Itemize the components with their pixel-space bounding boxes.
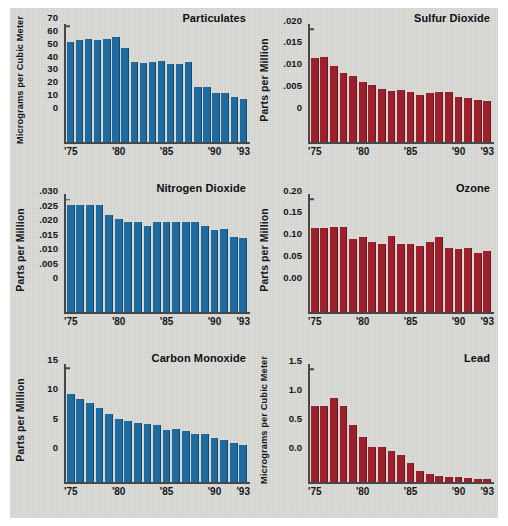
bar [388, 236, 396, 312]
chart-title: Nitrogen Dioxide [156, 182, 246, 194]
bar [320, 228, 328, 312]
bar [131, 62, 138, 142]
x-tick-label: '75 [308, 316, 322, 327]
bar [124, 222, 132, 312]
bar [182, 431, 190, 482]
bar [311, 228, 319, 312]
bar [94, 40, 101, 142]
x-tick-label: '85 [160, 316, 174, 327]
bar [134, 222, 142, 312]
bar [435, 237, 443, 312]
bar [134, 423, 142, 482]
plot-area: 0.000.050.100.150.20'75'80'85'90'93 [272, 194, 494, 340]
bar [368, 85, 376, 143]
x-tick-label: '85 [404, 316, 418, 327]
chart-panel-particulates: Micrograms per Cubic MeterParticulates01… [10, 8, 254, 178]
x-tick-label: '93 [236, 316, 250, 327]
y-tick-label: .025 [39, 199, 58, 210]
x-tick-label: '80 [356, 316, 370, 327]
bar [416, 95, 424, 143]
y-tick-label: 70 [47, 11, 58, 22]
y-axis-label: Micrograms per Cubic Meter [256, 348, 272, 492]
bar [76, 399, 84, 483]
x-axis-line [64, 482, 250, 484]
x-axis-labels: '75'80'85'90'93 [310, 146, 492, 164]
y-tick-label: 60 [47, 24, 58, 35]
bar [426, 474, 434, 482]
plot-area: 0.005.010.015.020.025.030'75'80'85'90'93 [28, 194, 250, 340]
x-tick-label: '80 [112, 486, 126, 497]
bar [211, 230, 219, 313]
x-tick-label: '93 [236, 146, 250, 157]
x-axis-labels: '75'80'85'90'93 [66, 316, 248, 334]
bar [112, 37, 119, 142]
y-tick-label: 0.5 [289, 413, 302, 424]
x-tick-label: '90 [208, 486, 222, 497]
x-tick-label: '90 [208, 316, 222, 327]
bar [212, 93, 219, 142]
y-tick-label: 0 [53, 272, 58, 283]
bar [163, 222, 171, 312]
x-tick-label: '80 [356, 146, 370, 157]
bar [172, 429, 180, 482]
bar [182, 222, 190, 312]
chart-panel-sulfur-dioxide: Parts per MillionSulfur Dioxide0.005.010… [254, 8, 498, 178]
bar [464, 98, 472, 142]
bar [144, 424, 152, 482]
y-axis-ticks: 010203040506070 [28, 24, 64, 144]
x-tick-label: '93 [480, 146, 494, 157]
bar [426, 242, 434, 312]
y-tick-label: 5 [53, 412, 58, 423]
bar [67, 42, 74, 143]
bar [416, 471, 424, 483]
bar [105, 414, 113, 482]
plot-area: 010203040506070'75'80'85'90'93 [28, 24, 250, 170]
bar [230, 237, 238, 312]
bar [115, 219, 123, 312]
bar [464, 478, 472, 482]
x-tick-label: '75 [308, 486, 322, 497]
x-axis-labels: '75'80'85'90'93 [310, 486, 492, 504]
y-axis-label: Parts per Million [256, 178, 272, 322]
y-axis-ticks: 0.005.010.015.020.025.030 [28, 194, 64, 314]
plot-area: 0.00.51.01.5'75'80'85'90'93 [272, 364, 494, 510]
bar [115, 419, 123, 483]
chart-panel-nitrogen-dioxide: Parts per MillionNitrogen Dioxide0.005.0… [10, 178, 254, 348]
y-axis-label-text: Micrograms per Cubic Meter [15, 16, 25, 144]
x-tick-label: '90 [452, 146, 466, 157]
bar [86, 403, 94, 482]
chart-panel-carbon-monoxide: Parts per MillionCarbon Monoxide051015'7… [10, 348, 254, 518]
y-tick-label: .010 [283, 58, 302, 69]
plot-area: 051015'75'80'85'90'93 [28, 364, 250, 510]
chart-title: Sulfur Dioxide [414, 12, 490, 24]
bar [230, 443, 238, 482]
bar-series [310, 364, 492, 482]
chart-grid: Micrograms per Cubic MeterParticulates01… [10, 8, 498, 518]
chart-title: Carbon Monoxide [152, 352, 246, 364]
bar [445, 248, 453, 312]
bar [359, 237, 367, 312]
bar [483, 101, 491, 143]
bar [340, 73, 348, 142]
y-tick-label: 0 [53, 442, 58, 453]
y-tick-label: 50 [47, 37, 58, 48]
bar [407, 244, 415, 312]
bar [103, 39, 110, 142]
y-axis-ticks: 0.000.050.100.150.20 [272, 194, 308, 314]
bar [96, 205, 104, 312]
bar [435, 92, 443, 143]
bar-series [66, 364, 248, 482]
y-tick-label: 0 [297, 102, 302, 113]
bar [239, 445, 247, 483]
bar [105, 215, 113, 312]
y-tick-label: .020 [283, 14, 302, 25]
y-tick-label: 20 [47, 76, 58, 87]
bar [340, 227, 348, 313]
bar [455, 249, 463, 313]
y-tick-label: .005 [283, 80, 302, 91]
y-tick-label: 10 [47, 89, 58, 100]
bar [330, 66, 338, 143]
bar [172, 222, 180, 312]
bar [140, 63, 147, 142]
bar [483, 479, 491, 483]
